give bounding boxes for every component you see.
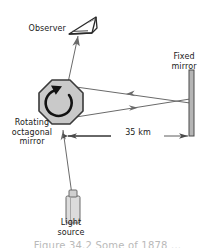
label-observer: Observer [10, 24, 66, 34]
figure-container: Observer Fixed mirror Rotating octagonal… [0, 0, 215, 248]
figure-caption: Figure 34.2 Some of 1878 ... [0, 240, 215, 248]
observer-eye-icon [69, 17, 97, 34]
label-light-source: Light source [43, 218, 99, 237]
label-fixed-mirror: Fixed mirror [160, 52, 208, 71]
ray-source-to-mirror [61, 130, 72, 195]
ray-mirror-to-fixed-outgoing [76, 99, 190, 117]
vertical-mirror-bar-icon[interactable] [189, 70, 194, 136]
label-distance-35km: 35 km [112, 128, 164, 138]
ray-fixed-to-mirror-returning [76, 87, 190, 103]
label-rotating-octagonal-mirror: Rotating octagonal mirror [2, 118, 62, 147]
